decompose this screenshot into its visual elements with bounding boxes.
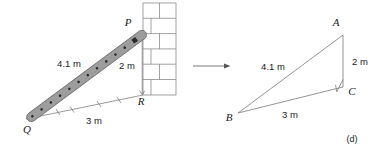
vertex-label-A: A (332, 16, 340, 28)
measure-vertical-leg: 2 m (352, 56, 368, 67)
vertex-label-R: R (137, 95, 145, 107)
wall-height-dimension (140, 35, 145, 95)
transition-arrow-head (224, 63, 231, 68)
measure-ladder-length: 4.1 m (57, 58, 81, 69)
measure-horizontal-leg: 3 m (282, 109, 298, 120)
ladder-rails (25, 28, 148, 123)
vertex-label-Q: Q (23, 123, 31, 135)
measure-hypotenuse: 4.1 m (261, 61, 285, 72)
vertex-label-P: P (124, 16, 132, 28)
transition-arrow (193, 63, 231, 68)
measure-wall-height: 2 m (119, 60, 135, 71)
figure-svg: P Q R 4.1 m 2 m 3 m A B C 4.1 m 2 m (0, 0, 382, 154)
figure-container: P Q R 4.1 m 2 m 3 m A B C 4.1 m 2 m (0, 0, 382, 154)
figure-caption: (d) (347, 134, 358, 144)
vertex-label-C: C (348, 85, 356, 97)
brick-wall (143, 3, 176, 95)
vertex-label-B: B (226, 111, 233, 123)
right-diagram-triangle: A B C 4.1 m 2 m 3 m (226, 16, 368, 123)
right-angle-marker-C (336, 79, 344, 91)
ladder (25, 28, 148, 123)
triangle-side-BA (238, 35, 343, 113)
left-diagram-ladder-wall: P Q R 4.1 m 2 m 3 m (23, 3, 176, 135)
measure-ground-distance: 3 m (86, 115, 102, 126)
